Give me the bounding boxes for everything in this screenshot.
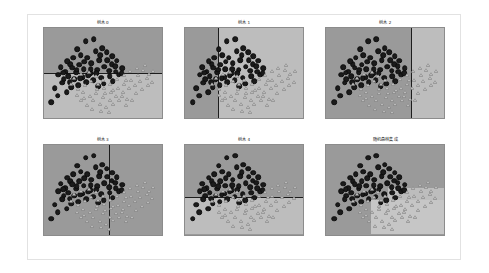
axes-area xyxy=(43,27,163,119)
decision-boundary-line xyxy=(411,28,412,118)
panel-grid: 树木 0树木 1树木 2树木 3树木 4随机森林集成 xyxy=(28,15,460,259)
axes-area xyxy=(184,144,304,236)
panel-0: 树木 0 xyxy=(32,20,173,137)
panel-title: 树木 1 xyxy=(238,20,250,27)
panel-title: 树木 2 xyxy=(379,20,391,27)
panel-title: 树木 4 xyxy=(238,137,250,144)
decision-boundary-line xyxy=(109,145,110,235)
axes-area xyxy=(43,144,163,236)
axes-area xyxy=(325,27,445,119)
panel-title: 树木 0 xyxy=(97,20,109,27)
panel-5: 随机森林集成 xyxy=(315,137,456,254)
decision-region-upper xyxy=(185,145,303,197)
decision-region-left xyxy=(44,145,109,235)
figure-canvas: 树木 0树木 1树木 2树木 3树木 4随机森林集成 xyxy=(27,14,461,260)
decision-region-right xyxy=(109,145,162,235)
decision-region-lower xyxy=(185,197,303,235)
decision-region-right xyxy=(411,28,444,118)
decision-region-left xyxy=(326,28,411,118)
panel-4: 树木 4 xyxy=(173,137,314,254)
axes-area xyxy=(184,27,304,119)
axes-area xyxy=(325,144,445,236)
decision-region-step-lower xyxy=(371,200,444,234)
panel-title: 随机森林集成 xyxy=(373,137,398,144)
panel-title: 树木 3 xyxy=(97,137,109,144)
panel-1: 树木 1 xyxy=(173,20,314,137)
panel-3: 树木 3 xyxy=(32,137,173,254)
decision-boundary-line xyxy=(218,28,219,118)
panel-2: 树木 2 xyxy=(315,20,456,137)
decision-region-left xyxy=(185,28,218,118)
decision-boundary-line xyxy=(44,73,162,74)
decision-region-upper xyxy=(44,28,162,73)
decision-boundary-line xyxy=(185,197,303,198)
decision-region-right xyxy=(218,28,303,118)
decision-region-lower xyxy=(44,73,162,118)
